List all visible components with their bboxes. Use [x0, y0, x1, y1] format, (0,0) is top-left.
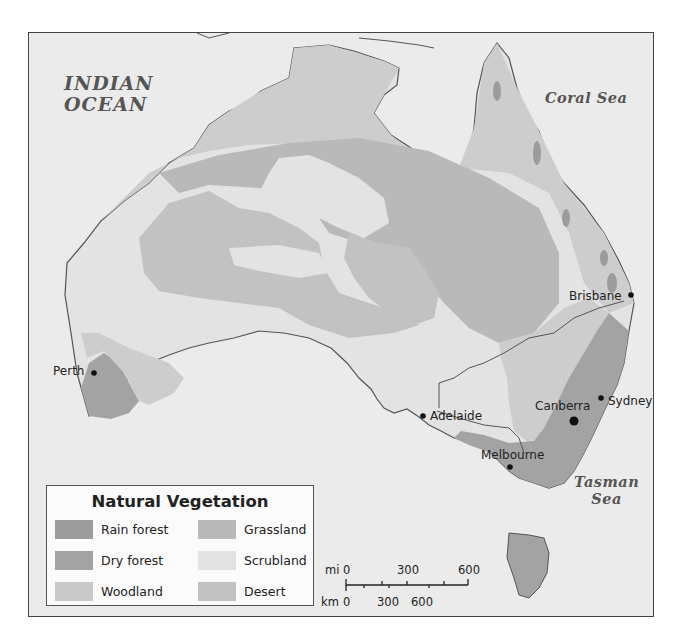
scrubland-swatch	[198, 551, 236, 570]
legend-item-dry-forest: Dry forest	[55, 551, 163, 570]
city-dot-melbourne	[507, 464, 513, 470]
legend-item-scrubland: Scrubland	[198, 551, 307, 570]
city-label-sydney: Sydney	[608, 394, 652, 408]
city-label-canberra: Canberra	[535, 399, 590, 413]
legend-item-rain-forest: Rain forest	[55, 520, 168, 539]
city-dot-sydney	[598, 395, 604, 401]
scale-km-label: km	[321, 595, 339, 609]
city-label-adelaide: Adelaide	[430, 409, 482, 423]
indian-ocean-label: INDIAN OCEAN	[64, 73, 154, 115]
grassland-swatch	[198, 520, 236, 539]
scale-bar-graphic	[319, 577, 479, 597]
dry-forest-swatch	[55, 551, 93, 570]
scale-km-600: 600	[411, 595, 433, 609]
scale-mi-0: 0	[343, 563, 350, 577]
scale-km-300: 300	[377, 595, 399, 609]
city-label-perth: Perth	[53, 364, 84, 378]
city-dot-brisbane	[628, 292, 634, 298]
scale-mi-600: 600	[458, 563, 480, 577]
rain-forest-swatch	[55, 520, 93, 539]
legend-item-woodland: Woodland	[55, 582, 163, 601]
legend: Natural Vegetation Rain forest Dry fores…	[46, 485, 314, 606]
map-frame: INDIAN OCEAN Coral Sea Tasman Sea Perth …	[28, 32, 654, 617]
scale-mi-300: 300	[397, 563, 419, 577]
legend-item-desert: Desert	[198, 582, 286, 601]
tasmania	[507, 533, 549, 598]
desert-swatch	[198, 582, 236, 601]
city-label-melbourne: Melbourne	[481, 448, 544, 462]
tasman-sea-label: Tasman Sea	[574, 473, 639, 507]
woodland-swatch	[55, 582, 93, 601]
coral-sea-label: Coral Sea	[545, 89, 627, 106]
legend-title: Natural Vegetation	[47, 492, 313, 511]
scale-km-0: 0	[343, 595, 350, 609]
city-label-brisbane: Brisbane	[569, 289, 622, 303]
city-dot-perth	[91, 370, 97, 376]
city-dot-canberra	[570, 417, 579, 426]
legend-item-grassland: Grassland	[198, 520, 307, 539]
city-dot-adelaide	[420, 413, 426, 419]
scale-bar: mi 0 300 600 km 0 300 600	[319, 561, 479, 611]
scale-mi-label: mi	[325, 563, 339, 577]
